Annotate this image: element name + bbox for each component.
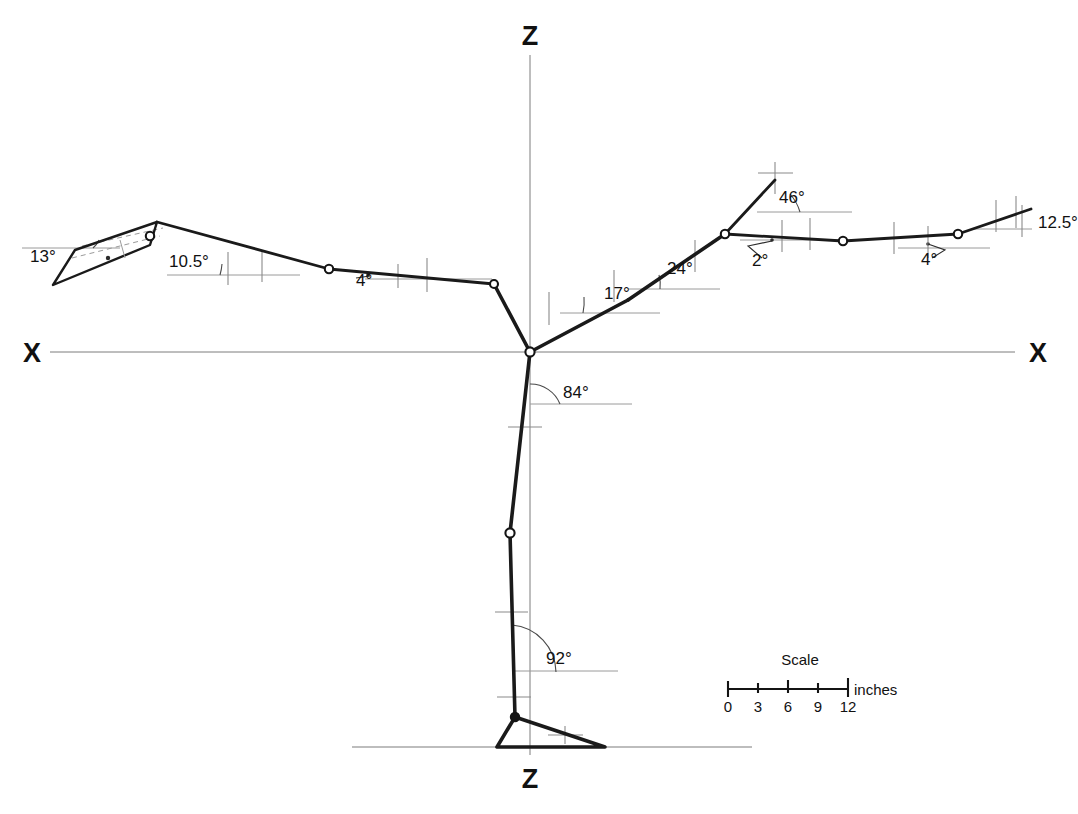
axis-label-z-top: Z bbox=[522, 21, 539, 51]
scale-tick-label-6: 6 bbox=[784, 698, 792, 715]
scale-tick-label-12: 12 bbox=[840, 698, 857, 715]
segment-right-hand bbox=[958, 209, 1031, 234]
arc-17 bbox=[583, 297, 584, 313]
joint-elbow-right bbox=[839, 237, 847, 245]
joint-hip bbox=[525, 347, 534, 356]
left-hand-plate bbox=[53, 222, 157, 285]
segment-trunk-lower bbox=[530, 300, 628, 352]
angle-label-forearm-left: 10.5° bbox=[169, 252, 209, 271]
angle-label-neck-head: 46° bbox=[779, 188, 805, 207]
angle-label-trunk-mid: 24° bbox=[667, 259, 693, 278]
angle-label-hip-thigh: 84° bbox=[563, 383, 589, 402]
angle-annotation-group bbox=[93, 194, 945, 672]
angle-label-trunk-lower: 17° bbox=[604, 284, 630, 303]
scale-tick-label-0: 0 bbox=[724, 698, 732, 715]
figure-canvas: Z Z X X bbox=[0, 0, 1078, 814]
joint-shoulder-right bbox=[721, 230, 729, 238]
angle-label-upperarm-left: 4° bbox=[356, 271, 372, 290]
joint-elbow-left bbox=[325, 265, 333, 273]
scale-bar: Scale 0 3 6 9 12 inches bbox=[724, 651, 898, 715]
segment-right-forearm bbox=[843, 234, 958, 241]
angle-labels: 13° 10.5° 4° 17° 24° 46° 2° 4° 12.5° 84°… bbox=[30, 188, 1078, 668]
angle-label-shoulder-arm: 2° bbox=[752, 251, 768, 270]
joint-hand-left bbox=[146, 232, 154, 240]
reference-construction-lines bbox=[22, 162, 1032, 744]
axis-label-x-left: X bbox=[23, 338, 41, 368]
axis-label-z-bottom: Z bbox=[522, 764, 539, 794]
joint-wrist-right bbox=[954, 230, 962, 238]
angle-label-hand-right: 12.5° bbox=[1038, 213, 1078, 232]
segment-shank bbox=[510, 533, 515, 717]
scale-bar-title: Scale bbox=[781, 651, 819, 668]
marker-hand-plate-point bbox=[106, 256, 110, 260]
scale-unit-label: inches bbox=[854, 681, 897, 698]
axis-label-x-right: X bbox=[1029, 338, 1047, 368]
joint-ankle bbox=[511, 713, 520, 722]
axis-group bbox=[50, 55, 1015, 755]
segment-left-upperarm bbox=[329, 269, 494, 284]
joint-knee bbox=[505, 528, 514, 537]
segment-thigh bbox=[510, 352, 530, 533]
joint-shoulder-left bbox=[490, 280, 498, 288]
scale-tick-label-3: 3 bbox=[754, 698, 762, 715]
arc-10-5 bbox=[220, 264, 222, 275]
linkage-diagram: Z Z X X bbox=[0, 0, 1078, 814]
joint-markers bbox=[106, 230, 962, 722]
angle-label-hand-left-pitch: 13° bbox=[30, 247, 56, 266]
segment-left-shoulder-link bbox=[494, 284, 530, 352]
segment-neck-head bbox=[725, 180, 775, 234]
angle-label-knee-shank: 92° bbox=[546, 649, 572, 668]
scale-tick-label-9: 9 bbox=[814, 698, 822, 715]
arc-84 bbox=[530, 384, 560, 404]
angle-label-forearm-right: 4° bbox=[921, 250, 937, 269]
